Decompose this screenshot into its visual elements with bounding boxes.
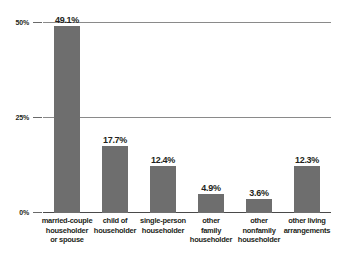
category-label-4-line-1: nonfamily: [232, 226, 286, 236]
category-label-5-line-0: other living: [280, 216, 334, 226]
bar-other-family-householder: [198, 194, 224, 213]
bar-value-1: 17.7%: [103, 135, 127, 145]
category-label-3-line-2: householder: [184, 235, 238, 245]
y-tick-label-50: 50%: [16, 19, 29, 26]
tick-stub-0: [33, 212, 42, 213]
bar-value-4: 3.6%: [249, 188, 268, 198]
bar-slot-4: 3.6%: [235, 22, 283, 213]
category-label-5: other living arrangements: [280, 216, 334, 235]
category-label-1-line-1: householder: [88, 226, 142, 236]
category-label-0: married-couple householder or spouse: [40, 216, 94, 245]
category-label-1: child of householder: [88, 216, 142, 235]
bar-slot-3: 4.9%: [187, 22, 235, 213]
category-label-4: other nonfamily householder: [232, 216, 286, 245]
tick-stub-25: [33, 117, 42, 118]
bar-slot-0: 49.1%: [43, 22, 91, 213]
category-label-2-line-1: householder: [136, 226, 190, 236]
bar-value-5: 12.3%: [295, 155, 319, 165]
category-label-0-line-0: married-couple: [40, 216, 94, 226]
bars-layer: 49.1% 17.7% 12.4% 4.9% 3.6% 12.3%: [43, 22, 331, 213]
bar-slot-5: 12.3%: [283, 22, 331, 213]
tick-stub-50: [33, 22, 42, 23]
bar-chart: 50% 25% 0% 49.1% 17.7% 12.4%: [0, 0, 341, 272]
bar-value-2: 12.4%: [151, 155, 175, 165]
category-label-3: other family householder: [184, 216, 238, 245]
category-axis: married-couple householder or spouse chi…: [43, 216, 331, 272]
category-label-0-line-2: or spouse: [40, 235, 94, 245]
bar-other-nonfamily-householder: [246, 199, 272, 213]
category-label-2: single-person householder: [136, 216, 190, 235]
bar-value-0: 49.1%: [55, 15, 79, 25]
bar-slot-1: 17.7%: [91, 22, 139, 213]
category-label-0-line-1: householder: [40, 226, 94, 236]
category-label-5-line-1: arrangements: [280, 226, 334, 236]
category-label-4-line-0: other: [232, 216, 286, 226]
bar-other-living-arrangements: [294, 166, 320, 213]
category-label-3-line-1: family: [184, 226, 238, 236]
y-tick-label-0: 0%: [19, 209, 29, 216]
category-label-4-line-2: householder: [232, 235, 286, 245]
plot-area: 50% 25% 0% 49.1% 17.7% 12.4%: [43, 22, 331, 213]
bar-single-person-householder: [150, 166, 176, 213]
bar-slot-2: 12.4%: [139, 22, 187, 213]
category-label-1-line-0: child of: [88, 216, 142, 226]
category-label-3-line-0: other: [184, 216, 238, 226]
category-label-2-line-0: single-person: [136, 216, 190, 226]
bar-value-3: 4.9%: [201, 183, 220, 193]
bar-married-couple-householder-or-spouse: [54, 26, 80, 213]
y-tick-label-25: 25%: [16, 114, 29, 121]
bar-child-of-householder: [102, 146, 128, 213]
